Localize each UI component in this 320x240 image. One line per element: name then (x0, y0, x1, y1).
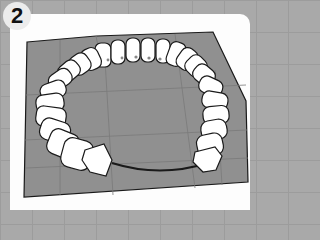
ring-on-mat-illustration (0, 0, 260, 210)
